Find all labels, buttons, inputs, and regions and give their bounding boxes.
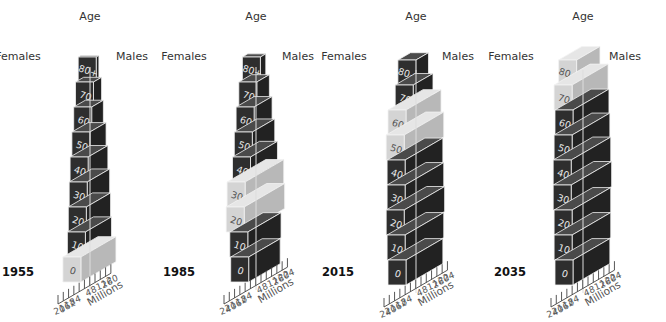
females-label: Females	[161, 50, 207, 63]
age-axis-title: Age	[405, 10, 427, 23]
pyramid-2015: 80+70605040302010024201612844812162024Mi…	[321, 10, 474, 320]
pyramid-1985: 80+70605040302010024201612844812162024Mi…	[161, 10, 314, 317]
age-axis-title: Age	[245, 10, 267, 23]
males-label: Males	[282, 50, 314, 63]
pyramid-2035: 80+70605040302010024201612844812162024Mi…	[488, 10, 641, 320]
females-label: Females	[321, 50, 367, 63]
year-label: 2035	[494, 265, 526, 279]
age-axis-title: Age	[79, 10, 101, 23]
year-label: 1955	[2, 265, 34, 279]
year-label: 2015	[322, 265, 354, 279]
pyramid-1955: 80+7060504030201002016128448121620Millio…	[0, 10, 148, 317]
males-label: Males	[609, 50, 641, 63]
pyramids-svg: 80+7060504030201002016128448121620Millio…	[0, 0, 666, 322]
males-label: Males	[116, 50, 148, 63]
year-label: 1985	[163, 265, 195, 279]
males-label: Males	[442, 50, 474, 63]
females-label: Females	[488, 50, 534, 63]
population-pyramids-figure: 1955 1985 2015 2035 80+70605040302010020…	[0, 0, 666, 322]
females-label: Females	[0, 50, 41, 63]
age-axis-title: Age	[572, 10, 594, 23]
